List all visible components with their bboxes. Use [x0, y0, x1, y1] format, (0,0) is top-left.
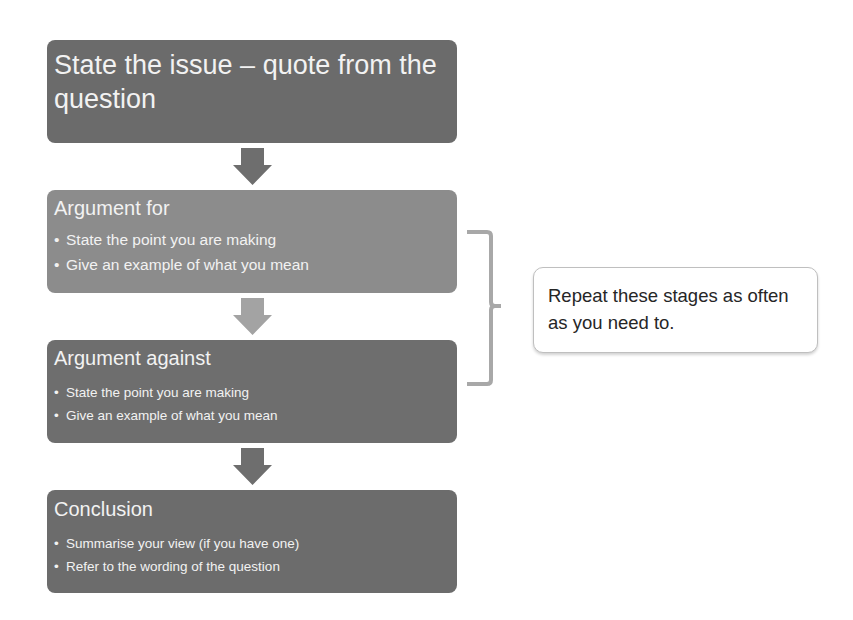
conclusion-title: Conclusion — [54, 496, 153, 522]
argument-against-box: Argument against State the point you are… — [47, 340, 457, 443]
issue-box: State the issue – quote from the questio… — [47, 40, 457, 143]
bullet-item: State the point you are making — [54, 381, 278, 404]
argument-against-bullets: State the point you are making Give an e… — [54, 381, 278, 427]
argument-against-title: Argument against — [54, 345, 211, 371]
bullet-item: State the point you are making — [54, 227, 309, 252]
bullet-item: Summarise your view (if you have one) — [54, 532, 299, 555]
repeat-callout: Repeat these stages as often as you need… — [533, 267, 818, 353]
argument-for-box: Argument for State the point you are mak… — [47, 190, 457, 293]
argument-for-bullets: State the point you are making Give an e… — [54, 227, 309, 277]
down-arrow-icon — [233, 448, 272, 485]
bullet-item: Give an example of what you mean — [54, 252, 309, 277]
right-bracket-icon — [464, 229, 534, 389]
argument-for-title: Argument for — [54, 195, 170, 221]
conclusion-box: Conclusion Summarise your view (if you h… — [47, 490, 457, 593]
bullet-item: Refer to the wording of the question — [54, 555, 299, 578]
down-arrow-icon — [233, 148, 272, 185]
down-arrow-icon — [233, 298, 272, 335]
callout-text: Repeat these stages as often as you need… — [548, 282, 808, 336]
issue-title: State the issue – quote from the questio… — [54, 48, 454, 116]
bullet-item: Give an example of what you mean — [54, 404, 278, 427]
conclusion-bullets: Summarise your view (if you have one) Re… — [54, 532, 299, 578]
